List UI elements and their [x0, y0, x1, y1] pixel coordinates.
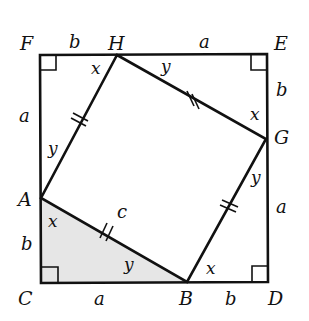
right-angle-mark-d — [252, 266, 268, 282]
side-label-fh: b — [69, 31, 81, 52]
angle-label-b-right: x — [206, 258, 216, 278]
side-label-he: a — [199, 31, 210, 52]
angle-label-h-right: y — [160, 56, 171, 76]
pythagorean-diagram: F H E G A C B D b a b a a b a b c x y x … — [0, 0, 309, 321]
angle-label-a-bottom: x — [48, 211, 58, 231]
vertex-label-c: C — [18, 287, 33, 309]
angle-label-h-left: x — [91, 58, 101, 78]
side-label-ab: c — [117, 201, 127, 222]
angle-label-g-bottom: y — [250, 167, 261, 187]
side-label-cb: a — [94, 288, 105, 309]
vertex-label-a: A — [16, 188, 32, 210]
side-label-ac: b — [21, 233, 33, 254]
side-label-eg: b — [276, 79, 288, 100]
right-angle-mark-f — [40, 55, 56, 70]
angle-label-a-top: y — [47, 138, 58, 158]
angle-label-g-top: x — [250, 104, 260, 124]
vertex-label-h: H — [107, 32, 125, 54]
vertex-label-f: F — [19, 32, 34, 54]
side-label-gd: a — [276, 196, 287, 217]
vertex-label-d: D — [267, 287, 283, 309]
vertex-label-e: E — [273, 32, 288, 54]
vertex-label-b: B — [178, 287, 193, 309]
side-label-fa: a — [19, 105, 30, 126]
vertex-label-g: G — [274, 126, 289, 148]
side-label-bd: b — [225, 288, 237, 309]
angle-label-b-left: y — [123, 254, 134, 274]
right-angle-mark-e — [251, 54, 267, 70]
